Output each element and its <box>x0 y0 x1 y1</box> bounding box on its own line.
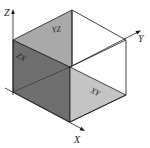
z-arrow-icon <box>11 9 15 14</box>
y-axis-label: Y <box>138 33 145 44</box>
z-axis: Z <box>4 7 15 95</box>
coordinate-planes-diagram: Z Y X YZ ZX XY <box>0 0 150 148</box>
x-axis-label: X <box>73 134 81 145</box>
x-arrow-icon <box>80 127 86 131</box>
z-axis-label: Z <box>4 7 10 18</box>
yz-plane-label: YZ <box>51 24 62 34</box>
